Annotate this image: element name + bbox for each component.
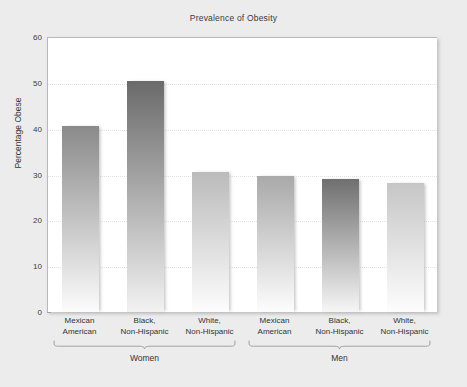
y-axis-ticks: 0102030405060 <box>8 37 42 312</box>
gridline <box>48 130 437 131</box>
y-tick-label: 60 <box>12 33 42 42</box>
x-tick-label-line2: American <box>242 327 307 338</box>
x-tick-label: Black,Non-Hispanic <box>112 316 177 337</box>
group-label: Women <box>53 353 236 363</box>
x-tick-label: White,Non-Hispanic <box>372 316 437 337</box>
x-tick-label-line2: American <box>47 327 112 338</box>
x-tick-label-line1: White, <box>177 316 242 327</box>
bar <box>387 183 424 312</box>
gridline <box>48 176 437 177</box>
gridline <box>48 221 437 222</box>
x-tick-label: Black,Non-Hispanic <box>307 316 372 337</box>
bar-fill <box>257 176 294 312</box>
x-tick-label-line1: White, <box>372 316 437 327</box>
y-tick-label: 10 <box>12 262 42 271</box>
bar-fill <box>387 183 424 312</box>
y-tick-label: 50 <box>12 78 42 87</box>
x-tick-label: MexicanAmerican <box>242 316 307 337</box>
x-tick-label-line1: Black, <box>112 316 177 327</box>
x-tick-label-line2: Non-Hispanic <box>112 327 177 338</box>
gridline <box>48 84 437 85</box>
bar <box>322 179 359 312</box>
bar-fill <box>322 179 359 312</box>
gridline <box>48 267 437 268</box>
y-tick-label: 40 <box>12 124 42 133</box>
bar <box>257 176 294 312</box>
x-tick-label-line1: Mexican <box>242 316 307 327</box>
bar-fill <box>62 126 99 312</box>
plot-area <box>47 37 437 312</box>
x-tick-label-line2: Non-Hispanic <box>372 327 437 338</box>
x-tick-label-line2: Non-Hispanic <box>307 327 372 338</box>
x-tick-label: White,Non-Hispanic <box>177 316 242 337</box>
x-tick-label: MexicanAmerican <box>47 316 112 337</box>
bar <box>62 126 99 312</box>
bar <box>127 81 164 312</box>
chart-figure: Prevalence of Obesity Percentage Obese 0… <box>0 0 467 387</box>
bar-fill <box>192 172 229 312</box>
bar-fill <box>127 81 164 312</box>
y-tick-label: 30 <box>12 170 42 179</box>
x-tick-label-line1: Mexican <box>47 316 112 327</box>
group-brackets: WomenMen <box>47 340 437 378</box>
x-tick-label-line2: Non-Hispanic <box>177 327 242 338</box>
y-tick-label: 20 <box>12 216 42 225</box>
x-tick-label-line1: Black, <box>307 316 372 327</box>
x-axis-labels: MexicanAmericanBlack,Non-HispanicWhite,N… <box>47 316 437 340</box>
group-label: Men <box>248 353 431 363</box>
chart-title: Prevalence of Obesity <box>0 13 467 23</box>
bar <box>192 172 229 312</box>
y-tick-label: 0 <box>12 308 42 317</box>
group-bracket <box>53 340 236 351</box>
group-bracket <box>248 340 431 351</box>
